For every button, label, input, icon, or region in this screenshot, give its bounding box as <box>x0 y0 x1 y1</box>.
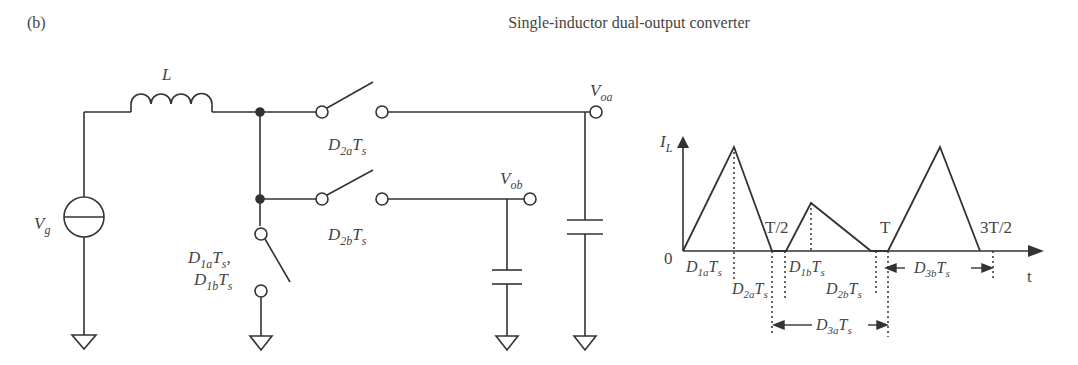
switch-d2b <box>260 170 524 205</box>
x-axis-label: t <box>1027 267 1032 286</box>
y-axis-label: IL <box>659 132 673 155</box>
interval-d3a: D3aTs <box>815 316 852 336</box>
output-capacitor-b <box>492 193 536 350</box>
ground-icon <box>250 336 272 350</box>
waveform-axes <box>677 136 1044 257</box>
switch-2b-label: D2bTs <box>327 225 367 248</box>
dotted-guides <box>734 147 993 337</box>
converter-diagram: L Vg D2aTs D2bTs D1aTs, D1bTs Voa Vob IL… <box>0 0 1078 365</box>
output-b-label: Vob <box>500 169 522 192</box>
origin-label: 0 <box>664 249 673 268</box>
output-terminal-a <box>590 106 602 118</box>
output-capacitor-a <box>567 106 603 350</box>
x-axis-arrow-icon <box>1028 245 1044 257</box>
ground-icon <box>72 335 96 349</box>
switch-d2a <box>260 82 590 118</box>
inductor-label: L <box>161 65 171 84</box>
ground-icon <box>496 336 518 350</box>
marker-period: T <box>880 218 891 237</box>
output-terminal-b <box>524 193 536 205</box>
inductor-l <box>84 94 260 113</box>
switch-1-label-line2: D1bTs <box>193 270 233 293</box>
inductor-current-waveform <box>683 147 980 251</box>
switch-1-label-line1: D1aTs, <box>187 248 231 271</box>
interval-d3b: D3bTs <box>913 259 950 279</box>
voltage-source-vg <box>64 112 104 349</box>
switch-2a-label: D2aTs <box>327 135 367 158</box>
output-a-label: Voa <box>590 81 612 104</box>
y-axis-arrow-icon <box>677 136 689 148</box>
switch-d1 <box>250 228 290 350</box>
marker-three-half-period: 3T/2 <box>980 218 1012 237</box>
source-label: Vg <box>34 214 50 237</box>
interval-d1b: D1bTs <box>788 258 825 278</box>
marker-half-period: T/2 <box>765 218 789 237</box>
interval-d1a: D1aTs <box>685 258 722 278</box>
interval-d2a: D2aTs <box>731 280 768 300</box>
interval-d2b: D2bTs <box>825 280 862 300</box>
ground-icon <box>574 336 596 350</box>
